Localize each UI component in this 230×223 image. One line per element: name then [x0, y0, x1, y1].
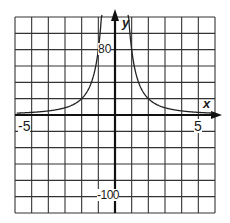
y-tick-label-neg100: -100 [97, 189, 119, 201]
y-axis-label: y [122, 16, 129, 29]
y-axis-arrow-icon [111, 9, 119, 21]
x-axis-arrow-icon [211, 111, 222, 119]
x-tick-label-5: 5 [194, 119, 202, 133]
x-axis-label: x [203, 97, 210, 110]
x-tick-label-neg5: -5 [18, 119, 30, 133]
y-tick-label-80: 80 [98, 43, 111, 55]
